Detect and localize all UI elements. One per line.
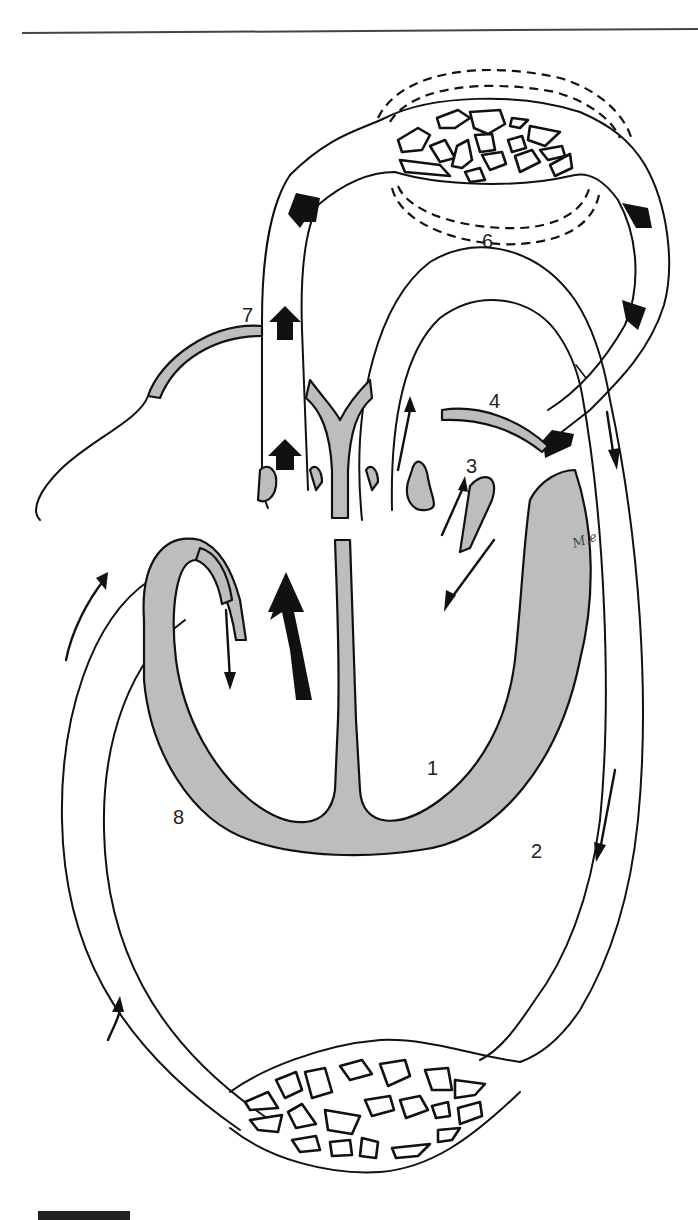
flow-vein-up-bottom: [108, 1010, 120, 1040]
ventricular-wall: [144, 470, 591, 855]
block-arrow-right-ventricle-head: [268, 572, 304, 612]
atrial-septum: [306, 380, 372, 518]
circulation-diagram: 6 7: [0, 0, 698, 1220]
right-atrium-wall: [148, 326, 262, 398]
pulmonary-vein-outer: [545, 165, 669, 445]
pulmonary-vein-inner: [548, 200, 635, 410]
label-3: 3: [466, 455, 477, 477]
pulmonary-valve-cusp: [258, 467, 276, 501]
arrowhead-aorta-top: [608, 448, 620, 470]
arrowhead-lv-aorta: [404, 396, 416, 412]
pulmonary-artery: [262, 175, 320, 508]
tricuspid-leaflet: [196, 548, 232, 604]
block-arrow-up-1: [288, 193, 320, 228]
flow-lv-to-aorta: [398, 410, 410, 470]
systemic-capillary-bed: [230, 1040, 520, 1173]
lung-capillary-cells: [398, 110, 572, 182]
pulmonary-capillary-bed: [290, 70, 645, 244]
block-arrow-up-3: [268, 439, 302, 470]
flow-ra-to-rv: [226, 610, 230, 680]
label-7: 7: [242, 304, 253, 326]
scale-bar: [38, 1211, 130, 1220]
label-8: 8: [173, 806, 184, 828]
arrowhead-aorta-bottom: [594, 842, 606, 862]
valve-cusp-mid-right: [366, 467, 378, 490]
flow-la-to-lv: [450, 540, 494, 600]
valve-cusp-mid-left: [310, 467, 322, 490]
body-capillary-cells: [245, 1060, 485, 1158]
alveolus-outline-bottom-inner: [398, 185, 590, 228]
block-arrow-down-3: [543, 430, 574, 458]
flow-la-up: [442, 490, 462, 535]
label-2: 2: [531, 840, 542, 862]
heart: [36, 326, 591, 855]
top-rule: [22, 29, 698, 33]
vena-cava-inner: [104, 620, 270, 1120]
left-atrium-wall: [442, 409, 548, 452]
flow-vein-up-top: [66, 580, 104, 660]
block-arrow-down-1: [622, 203, 652, 228]
alveolus-outline-bottom-outer: [392, 188, 600, 244]
block-arrow-right-ventricle-out: [270, 598, 314, 700]
aortic-valve-cusp: [407, 462, 434, 510]
alveolus-outline-top-inner: [390, 86, 620, 138]
block-arrow-up-2: [269, 306, 301, 340]
arrowhead-la-up: [458, 476, 468, 492]
pulmonary-vein: [543, 165, 669, 458]
superior-vena-cava-outer: [36, 396, 148, 520]
pulmonary-artery-inner: [302, 205, 318, 490]
arrowhead-ra-rv: [224, 672, 236, 690]
label-4: 4: [489, 390, 500, 412]
label-1: 1: [427, 757, 438, 779]
